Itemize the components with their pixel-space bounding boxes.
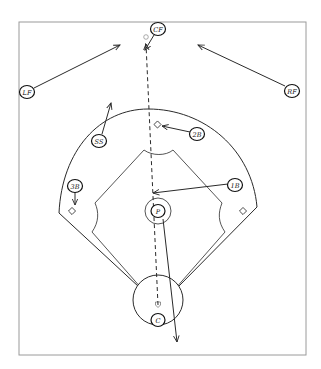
first-base bbox=[239, 207, 246, 214]
third-base bbox=[68, 207, 75, 214]
player-rf: RF bbox=[285, 85, 300, 98]
2b-label: 2B bbox=[192, 131, 202, 139]
rf-label: RF bbox=[286, 88, 297, 96]
player-1b: 1B bbox=[228, 179, 243, 192]
second-base bbox=[154, 121, 161, 128]
1b-label: 1B bbox=[231, 182, 240, 190]
2b-arrow bbox=[162, 126, 190, 132]
player-p: P bbox=[151, 205, 165, 218]
c-label: C bbox=[156, 317, 161, 325]
player-2b: 2B bbox=[190, 128, 205, 141]
player-lf: LF bbox=[20, 86, 35, 99]
player-c: C bbox=[151, 314, 165, 327]
3b-label: 3B bbox=[71, 183, 80, 191]
lf-label: LF bbox=[22, 89, 32, 97]
player-cf: CF bbox=[151, 23, 166, 36]
1b-arrow bbox=[153, 184, 228, 193]
player-ss: SS bbox=[92, 135, 107, 148]
p-label: P bbox=[155, 208, 161, 216]
cf-arrow bbox=[145, 35, 154, 50]
ball-icon bbox=[144, 35, 149, 40]
rf-arrow bbox=[198, 45, 285, 86]
ball-path bbox=[146, 44, 158, 305]
player-3b: 3B bbox=[68, 180, 83, 193]
ss-label: SS bbox=[95, 138, 104, 146]
baseball-field-diagram: CF LF RF SS 2B 3B 1B P C bbox=[0, 0, 321, 369]
cf-label: CF bbox=[153, 26, 163, 34]
lf-arrow bbox=[34, 45, 120, 88]
